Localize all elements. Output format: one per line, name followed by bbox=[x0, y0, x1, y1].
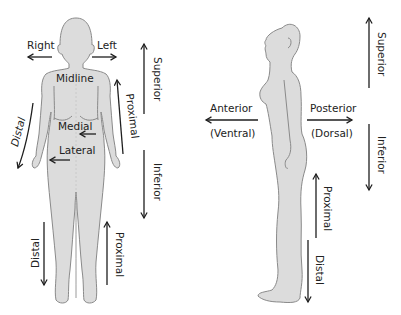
label-anterior: Anterior bbox=[210, 103, 252, 114]
label-side-proximal: Proximal bbox=[323, 186, 334, 231]
label-medial: Medial bbox=[58, 121, 92, 132]
label-proximal-leg: Proximal bbox=[115, 232, 126, 277]
label-side-distal: Distal bbox=[315, 255, 326, 285]
label-posterior: Posterior bbox=[310, 103, 356, 114]
anatomy-diagram: Right Left Midline Medial Lateral Superi… bbox=[0, 0, 401, 315]
label-midline: Midline bbox=[56, 73, 94, 84]
proximal-arm-arrow bbox=[117, 80, 123, 154]
label-distal-leg: Distal bbox=[30, 238, 41, 268]
label-side-inferior: Inferior bbox=[377, 136, 388, 174]
label-left: Left bbox=[97, 40, 117, 51]
label-inferior: Inferior bbox=[153, 163, 164, 201]
label-dorsal: (Dorsal) bbox=[311, 128, 353, 139]
label-superior: Superior bbox=[153, 57, 164, 101]
label-right: Right bbox=[27, 40, 55, 51]
label-ventral: (Ventral) bbox=[210, 128, 255, 139]
label-lateral: Lateral bbox=[59, 145, 96, 156]
diagram-graphics bbox=[0, 0, 401, 315]
side-body-figure bbox=[258, 24, 307, 302]
label-side-superior: Superior bbox=[377, 32, 388, 76]
